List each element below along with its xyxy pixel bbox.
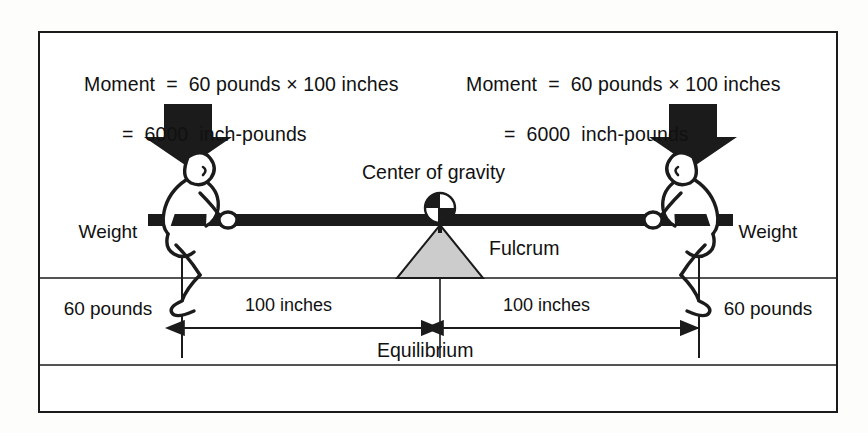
equilibrium-label: Equilibrium: [377, 338, 473, 363]
weight-right-line2: 60 pounds: [708, 296, 828, 322]
moment-left-line2: = 6000 inch-pounds: [62, 122, 399, 147]
moment-left-line1: Moment = 60 pounds × 100 inches: [84, 73, 398, 95]
figure-frame: Moment = 60 pounds × 100 inches = 6000 i…: [38, 31, 838, 413]
center-of-gravity-label: Center of gravity: [362, 160, 505, 185]
fulcrum-label: Fulcrum: [489, 236, 559, 261]
moment-right-line1: Moment = 60 pounds × 100 inches: [466, 73, 780, 95]
weight-left-label: Weight 60 pounds: [48, 168, 168, 373]
dimension-left-label: 100 inches: [245, 294, 332, 317]
dimension-right-label: 100 inches: [503, 294, 590, 317]
weight-right-label: Weight 60 pounds: [708, 168, 828, 373]
moment-right-line2: = 6000 inch-pounds: [444, 122, 781, 147]
weight-left-line1: Weight: [48, 219, 168, 245]
weight-left-line2: 60 pounds: [48, 296, 168, 322]
center-of-gravity-icon: [425, 193, 455, 233]
weight-right-line1: Weight: [708, 219, 828, 245]
